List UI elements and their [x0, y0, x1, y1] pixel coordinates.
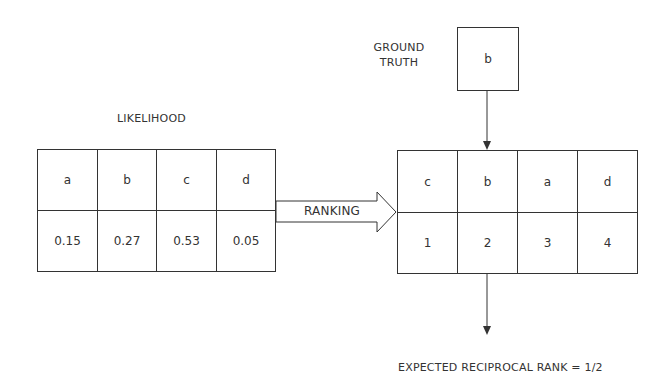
ground-truth-title-line1: GROUND	[366, 40, 432, 55]
likelihood-value-cell: 0.53	[156, 210, 217, 272]
ranked-rank-cell: 3	[517, 212, 578, 274]
ranked-label-cell: c	[397, 150, 458, 213]
likelihood-label-cell: a	[37, 149, 98, 211]
ranked-label-cell: d	[577, 150, 638, 213]
ranked-label-cell: b	[457, 150, 518, 213]
ranked-rank-cell: 1	[397, 212, 458, 274]
likelihood-label-cell: d	[216, 149, 276, 211]
arrow-down-icon	[483, 141, 491, 150]
likelihood-label-cell: b	[97, 149, 157, 211]
ground-truth-title-line2: TRUTH	[366, 55, 432, 70]
likelihood-value-cell: 0.15	[37, 210, 98, 272]
ranked-label-cell: a	[517, 150, 578, 213]
likelihood-value-cell: 0.05	[216, 210, 276, 272]
likelihood-label-cell: c	[156, 149, 217, 211]
ranked-rank-cell: 4	[577, 212, 638, 274]
ground-truth-box: b	[457, 27, 519, 91]
ground-truth-title: GROUND TRUTH	[366, 40, 432, 70]
arrow-down-icon	[483, 326, 491, 335]
result-text: EXPECTED RECIPROCAL RANK = 1/2	[398, 361, 603, 374]
likelihood-title: LIKELIHOOD	[117, 112, 186, 125]
ranked-rank-cell: 2	[457, 212, 518, 274]
ranking-arrow-label: RANKING	[304, 204, 360, 218]
likelihood-value-cell: 0.27	[97, 210, 157, 272]
